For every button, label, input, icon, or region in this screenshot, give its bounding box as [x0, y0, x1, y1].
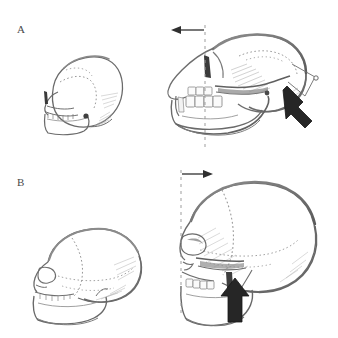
facial-projection-arrow-b — [182, 170, 213, 178]
figure-canvas: A B — [0, 0, 338, 338]
juvenile-human-skull — [33, 229, 141, 325]
juvenile-ape-skull — [44, 56, 122, 135]
adult-human-skull — [180, 182, 317, 326]
facial-projection-arrow-a — [171, 26, 204, 34]
growth-direction-arrow-a — [283, 86, 312, 128]
adult-ape-skull — [168, 35, 318, 136]
skull-illustration — [0, 0, 338, 338]
